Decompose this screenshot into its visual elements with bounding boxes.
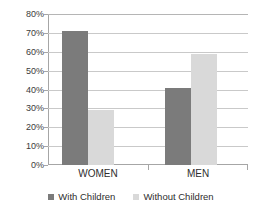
legend-label: Without Children: [143, 191, 213, 202]
y-axis-tick-label: 60%: [4, 47, 44, 57]
gridline-80: [48, 14, 248, 15]
y-axis-tick-label: 10%: [4, 141, 44, 151]
y-axis-tick-label: 70%: [4, 28, 44, 38]
bar-men-with-children: [165, 88, 191, 165]
legend-label: With Children: [58, 191, 115, 202]
y-axis-tick-label: 50%: [4, 66, 44, 76]
y-tick-mark: [44, 33, 48, 34]
y-axis-tick-label: 40%: [4, 85, 44, 95]
y-tick-mark: [44, 108, 48, 109]
legend-swatch-icon: [133, 194, 139, 200]
y-tick-mark: [44, 90, 48, 91]
bar-chart: 80% 70% 60% 50% 40% 30% 20% 10% 0%: [0, 0, 262, 211]
legend-swatch-icon: [48, 194, 54, 200]
category-label-women: WOMEN: [48, 168, 148, 179]
legend-item-without-children: Without Children: [133, 191, 213, 202]
plot-area: [48, 14, 248, 165]
bar-women-with-children: [62, 31, 88, 165]
y-axis-tick-label: 80%: [4, 9, 44, 19]
y-axis-tick-label: 0%: [4, 160, 44, 170]
y-tick-mark: [44, 14, 48, 15]
legend: With Children Without Children: [0, 191, 262, 202]
y-tick-mark: [44, 127, 48, 128]
category-label-men: MEN: [148, 168, 248, 179]
legend-item-with-children: With Children: [48, 191, 115, 202]
y-tick-mark: [44, 71, 48, 72]
y-axis-tick-label: 20%: [4, 122, 44, 132]
y-tick-mark: [44, 52, 48, 53]
bar-women-without-children: [88, 110, 114, 165]
bar-men-without-children: [191, 54, 217, 165]
y-tick-mark: [44, 165, 48, 166]
y-tick-mark: [44, 146, 48, 147]
y-axis-tick-label: 30%: [4, 103, 44, 113]
y-axis: 80% 70% 60% 50% 40% 30% 20% 10% 0%: [0, 14, 44, 165]
